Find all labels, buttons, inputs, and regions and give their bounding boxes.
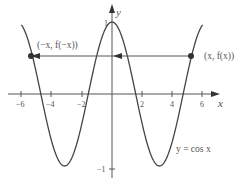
y-axis — [109, 4, 115, 178]
y-tick-neg1: −1 — [97, 165, 106, 174]
cosine-graph: x y 1 −1 −6 −4 −2 2 4 6 (−x, f(−x)) (x, … — [0, 0, 247, 186]
point-right — [188, 53, 194, 59]
x-tick-6: 6 — [200, 100, 204, 109]
curve-label: y = cos x — [176, 144, 211, 154]
left-point-label: (−x, f(−x)) — [37, 40, 78, 51]
x-tick-m2: −2 — [77, 100, 86, 109]
y-tick-1: 1 — [104, 19, 108, 28]
x-tick-2: 2 — [140, 100, 144, 109]
arrowhead-mid-icon — [113, 53, 122, 59]
x-tick-m6: −6 — [16, 100, 25, 109]
x-tick-4: 4 — [170, 100, 174, 109]
x-axis-label: x — [217, 97, 223, 109]
point-left — [28, 53, 34, 59]
right-point-label: (x, f(x)) — [204, 51, 234, 62]
x-tick-m4: −4 — [46, 100, 55, 109]
y-axis-label: y — [115, 6, 121, 18]
y-axis-arrow-icon — [109, 4, 115, 13]
